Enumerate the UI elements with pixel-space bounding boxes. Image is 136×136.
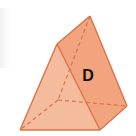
cropped-shape-fragment [0, 8, 10, 68]
triangular-prism [0, 0, 136, 136]
prism-label: D [80, 68, 96, 84]
prism-diagram: D [0, 0, 136, 136]
